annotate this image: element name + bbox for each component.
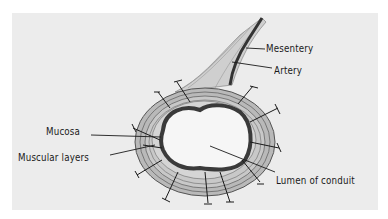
label-lumen-of-conduit: Lumen of conduit	[276, 174, 355, 187]
label-muscular-layers: Muscular layers	[18, 151, 89, 164]
label-mesentery: Mesentery	[266, 42, 313, 55]
mucosa-illustration	[161, 105, 250, 169]
label-artery: Artery	[274, 64, 302, 77]
label-mucosa: Mucosa	[46, 125, 80, 138]
mesentery-illustration	[175, 18, 266, 92]
